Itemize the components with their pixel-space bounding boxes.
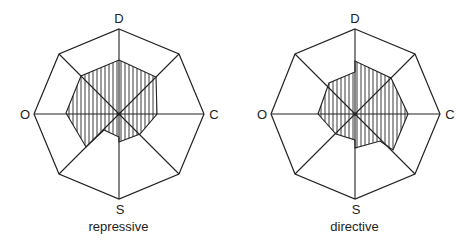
axis-label-s: S [116,202,125,217]
axis-label-d: D [114,11,123,26]
figure-caption: repressive [0,219,237,234]
axis-label-o: O [257,107,267,122]
figure-caption: directive [236,219,473,234]
radar-diagram: D O C S [236,0,473,250]
radar-diagram: D O C S [0,0,237,250]
axis-label-c: C [445,107,454,122]
center-dot [117,112,120,115]
axis-label-o: O [20,107,30,122]
axis-label-c: C [209,107,218,122]
radar-figure-directive: D O C S directive [236,0,473,250]
axis-label-d: D [350,11,359,26]
shaded-profile [66,60,157,147]
axis-label-s: S [352,202,361,217]
center-dot [353,112,356,115]
radar-figure-repressive: D O C S repressive [0,0,237,250]
